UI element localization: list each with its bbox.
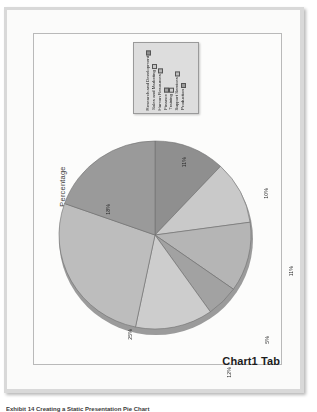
legend-swatch-icon [152,64,157,69]
legend-item[interactable]: Human Resources [158,68,163,110]
legend-item[interactable]: Sales and Marketing [152,64,157,110]
legend-item-label: Human Resources [158,74,162,110]
pie-data-label: 11% [182,157,187,167]
scanned-page: Percentage Research and Development Sale… [4,7,304,393]
page-footer-caption: Exhibit 14 Creating a Static Presentatio… [6,406,306,412]
legend-swatch-icon [158,68,163,73]
legend-item-label: Production [181,89,185,110]
screenshot-root: Percentage Research and Development Sale… [0,0,317,412]
pie-data-label: 11% [289,266,294,276]
pie-data-label: 5% [265,336,270,344]
legend-item[interactable]: Production [181,83,186,110]
pie-data-label: 18% [106,204,111,215]
pie-data-label: 12% [227,367,232,378]
chart-legend[interactable]: Research and Development Sales and Marke… [133,42,199,114]
pie-data-label: 10% [264,188,269,199]
legend-item-label: Research and Development [146,56,150,110]
legend-item-label: Support Services [175,77,179,110]
legend-swatch-icon [181,83,186,88]
pie-slice-group[interactable] [59,141,251,329]
pie-data-label: 25% [128,329,133,340]
legend-swatch-icon [175,71,180,76]
chart-frame: Percentage Research and Development Sale… [33,33,282,365]
page-surface: Percentage Research and Development Sale… [7,10,300,389]
legend-swatch-icon [164,88,169,93]
pie-chart[interactable] [56,132,256,342]
chart-tab-caption: Chart1 Tab [222,355,280,367]
pie-chart-svg[interactable] [56,132,256,342]
legend-item-label: Sales and Marketing [152,70,156,110]
legend-swatch-icon [146,50,151,55]
